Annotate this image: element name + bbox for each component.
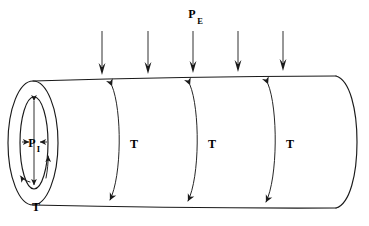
- hoop-arc-1-label: T: [130, 137, 138, 151]
- internal-pressure-label: P I: [28, 136, 41, 154]
- pressure-arrow-4: [235, 31, 242, 72]
- external-pressure-label: P E: [188, 7, 203, 26]
- cylinder-bottom-edge: [33, 205, 336, 208]
- pressure-vessel-diagram: P E: [0, 0, 369, 226]
- pressure-arrow-2: [145, 31, 152, 74]
- internal-pressure-subscript: I: [37, 144, 41, 154]
- hoop-arc-3-label: T: [286, 137, 294, 151]
- cylinder-top-edge: [33, 76, 336, 81]
- pressure-arrow-1: [99, 31, 106, 75]
- cylinder-body: [33, 76, 357, 208]
- hoop-arc-2: T: [188, 85, 216, 201]
- hoop-arc-3-path: [266, 84, 275, 202]
- external-pressure-symbol: P: [188, 7, 195, 21]
- cylinder-figure-svg: P E: [0, 0, 369, 226]
- pressure-arrow-3: [190, 31, 197, 73]
- hoop-arc-1-path: [110, 86, 119, 200]
- cylinder-right-cap: [336, 76, 357, 208]
- hoop-arc-1: T: [110, 86, 138, 200]
- external-pressure-subscript: E: [197, 16, 203, 26]
- hoop-arc-2-path: [188, 85, 197, 201]
- hoop-arc-3: T: [266, 84, 294, 202]
- pressure-arrow-5: [280, 31, 287, 71]
- external-pressure-arrow-group: [99, 31, 287, 75]
- internal-pressure-symbol: P: [28, 136, 35, 150]
- end-cap-tension-label: T: [32, 200, 40, 214]
- hoop-arc-2-label: T: [208, 137, 216, 151]
- hoop-tension-arc-group: T T T: [110, 84, 294, 202]
